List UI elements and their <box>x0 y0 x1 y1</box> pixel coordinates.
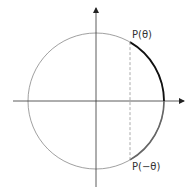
arc-theta <box>130 42 164 101</box>
unit-circle-diagram: P(θ) P(−θ) <box>0 0 189 189</box>
label-p-neg-theta: P(−θ) <box>132 161 160 172</box>
arc-neg-theta <box>130 101 164 160</box>
label-p-theta: P(θ) <box>132 29 152 40</box>
